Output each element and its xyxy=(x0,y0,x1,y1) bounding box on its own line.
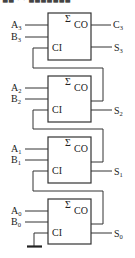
input-a-label: A3 xyxy=(11,19,21,31)
full-adder-bit0: A0 B0 Σ CO CI S0 xyxy=(11,199,123,247)
adder-diagram: A3 B3 Σ CO CI C3 S3 A2 B2 Σ CO CI S2 A1 … xyxy=(0,0,135,258)
carry-out-label: C3 xyxy=(113,19,123,31)
carry-in-pin-label: CI xyxy=(52,42,62,53)
sum-label: S0 xyxy=(114,228,123,240)
carry-out-pin-label: CO xyxy=(74,205,88,216)
carry-out-pin-label: CO xyxy=(74,82,88,93)
input-b-label: B2 xyxy=(11,93,21,105)
sum-label: S3 xyxy=(114,42,123,54)
carry-in-pin-label: CI xyxy=(52,165,62,176)
input-b-label: B0 xyxy=(11,216,21,228)
sum-label: S2 xyxy=(114,105,123,117)
carry-in-ground-wire xyxy=(34,233,48,246)
sigma-symbol: Σ xyxy=(65,13,71,24)
carry-out-pin-label: CO xyxy=(74,19,88,30)
sigma-symbol: Σ xyxy=(65,137,71,148)
input-b-label: B1 xyxy=(11,154,21,166)
carry-in-pin-label: CI xyxy=(52,227,62,238)
carry-out-pin-label: CO xyxy=(74,143,88,154)
sum-label: S1 xyxy=(114,166,123,178)
sigma-symbol: Σ xyxy=(65,76,71,87)
sigma-symbol: Σ xyxy=(65,199,71,210)
carry-in-pin-label: CI xyxy=(52,104,62,115)
input-b-label: B3 xyxy=(11,31,21,43)
